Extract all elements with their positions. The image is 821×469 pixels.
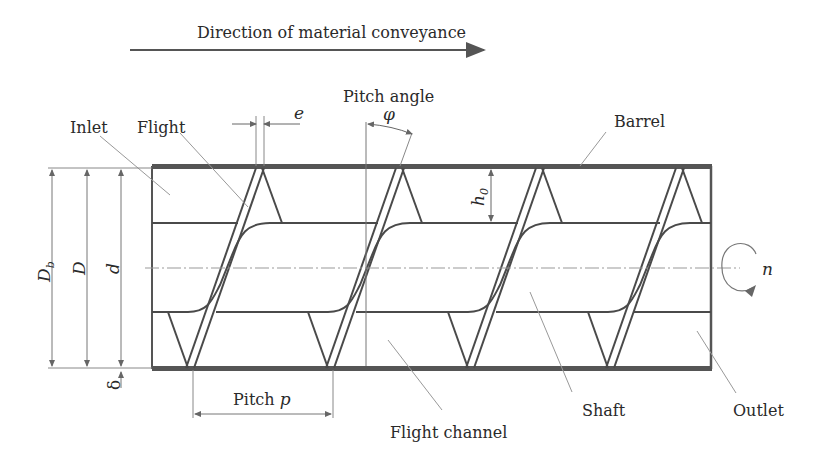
label-pitch: Pitch bbox=[233, 390, 275, 409]
screw-conveyor-diagram: Direction of material conveyance bbox=[0, 0, 821, 469]
label-inlet: Inlet bbox=[70, 118, 108, 137]
symbol-Db: D bbox=[34, 268, 54, 283]
direction-arrow: Direction of material conveyance bbox=[130, 23, 484, 50]
label-flight: Flight bbox=[137, 118, 186, 137]
channel-depth-dimension: h0 bbox=[468, 170, 491, 221]
symbol-phi: φ bbox=[383, 104, 395, 124]
symbol-D: D bbox=[69, 261, 89, 276]
symbol-h-sub: 0 bbox=[478, 188, 491, 195]
symbol-e: e bbox=[294, 103, 304, 123]
symbol-p: p bbox=[280, 389, 291, 409]
svg-text:Pitch p: Pitch p bbox=[233, 389, 291, 409]
label-flight-channel: Flight channel bbox=[390, 423, 507, 442]
label-outlet: Outlet bbox=[733, 401, 784, 420]
svg-text:h0: h0 bbox=[468, 188, 491, 206]
symbol-h: h bbox=[468, 195, 488, 206]
direction-label: Direction of material conveyance bbox=[197, 23, 466, 42]
diameter-dimensions bbox=[48, 168, 152, 388]
symbol-delta: δ bbox=[104, 380, 124, 390]
svg-text:Db: Db bbox=[34, 261, 57, 283]
label-shaft: Shaft bbox=[582, 401, 626, 420]
label-barrel: Barrel bbox=[614, 112, 665, 131]
symbol-d: d bbox=[103, 263, 123, 274]
flight-width-dimension: e bbox=[232, 103, 304, 166]
symbol-Db-sub: b bbox=[44, 261, 57, 268]
pitch-dimension: Pitch p bbox=[193, 370, 333, 418]
rotation-icon: n bbox=[722, 244, 773, 297]
symbol-n: n bbox=[762, 259, 773, 279]
